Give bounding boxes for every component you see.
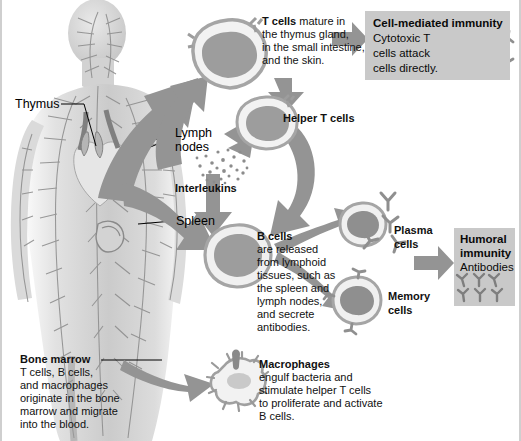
- label-thymus: Thymus: [15, 97, 59, 111]
- bone-marrow-line-5: into the blood.: [20, 418, 170, 431]
- label-spleen: Spleen: [176, 214, 215, 228]
- memory-cells-line-2: cells: [388, 304, 412, 317]
- bone-marrow-line-4: marrow and migrate: [20, 405, 170, 418]
- diagram-canvas: Cell-mediated immunity Cytotoxic T cells…: [0, 0, 521, 441]
- b-cells-annotation: B cells are released from lymphoid tissu…: [257, 230, 352, 334]
- bone-marrow-line-3: originate in the bone: [20, 392, 170, 405]
- b-cells-line-6: and secrete: [257, 308, 352, 321]
- t-cells-line-3: in the small intestine,: [262, 41, 387, 54]
- b-cells-line-4: the spleen and: [257, 282, 352, 295]
- t-cells-line-4: and the skin.: [262, 54, 387, 67]
- b-cells-line-1: are released: [257, 243, 352, 256]
- macrophages-line-2: stimulate helper T cells: [259, 384, 429, 397]
- b-cells-heading: B cells: [257, 230, 352, 243]
- humoral-antibody-icons: [458, 274, 512, 304]
- humoral-title-line-1: Humoral: [460, 233, 507, 245]
- label-lymph-nodes-line-1: Lymph: [175, 126, 212, 140]
- macrophages-line-4: B cells.: [259, 410, 429, 423]
- label-lymph-nodes-line-2: nodes: [175, 140, 209, 154]
- cell-mediated-title: Cell-mediated immunity: [373, 17, 503, 29]
- humoral-title-line-2: immunity: [460, 247, 511, 259]
- macrophages-heading: Macrophages: [259, 358, 429, 371]
- t-cells-line-1-rest: mature in: [296, 15, 345, 27]
- memory-cells-line-1: Memory: [388, 290, 430, 303]
- bone-marrow-line-2: and macrophages: [20, 379, 170, 392]
- t-cells-annotation: T cells mature in the thymus gland, in t…: [262, 15, 387, 67]
- interleukins-label: Interleukins: [175, 182, 237, 195]
- macrophages-line-3: to proliferate and activate: [259, 397, 429, 410]
- t-cells-heading: T cells: [262, 15, 296, 27]
- bone-marrow-annotation: Bone marrow T cells, B cells, and macrop…: [20, 353, 170, 431]
- plasma-cells-line-1: Plasma: [394, 224, 433, 237]
- macrophages-annotation: Macrophages engulf bacteria and stimulat…: [259, 358, 429, 423]
- b-cells-line-5: lymph nodes,: [257, 295, 352, 308]
- b-cells-line-3: tissues, such as: [257, 269, 352, 282]
- b-cells-line-7: antibodies.: [257, 321, 352, 334]
- helper-t-cells-label: Helper T cells: [283, 112, 355, 125]
- plasma-cells-line-2: cells: [394, 238, 418, 251]
- macrophages-line-1: engulf bacteria and: [259, 371, 429, 384]
- t-cell-illustration: [188, 16, 272, 92]
- b-cells-line-2: from lymphoid: [257, 256, 352, 269]
- bone-marrow-heading: Bone marrow: [20, 353, 170, 366]
- bone-marrow-line-1: T cells, B cells,: [20, 366, 170, 379]
- t-cells-line-2: the thymus gland,: [262, 28, 387, 41]
- humoral-subtitle: Antibodies: [460, 261, 514, 273]
